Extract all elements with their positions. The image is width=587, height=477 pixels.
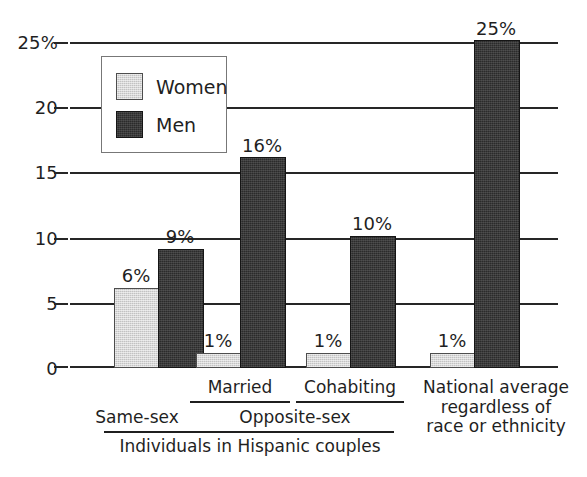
- bar-chart: 25% 20 15 10 5 0 6% 9% 1% 16% 1% 10% 1% …: [0, 0, 587, 477]
- bar-men-same-sex[interactable]: [158, 249, 204, 368]
- x-label-individuals-in-hispanic-couples: Individuals in Hispanic couples: [119, 437, 380, 457]
- bar-label-men-cohabiting: 10%: [352, 213, 392, 234]
- bar-women-cohabiting[interactable]: [306, 353, 352, 368]
- tick-stub-20: [54, 107, 68, 109]
- women-swatch-icon: [116, 73, 143, 100]
- bar-label-women-national-average: 1%: [438, 330, 467, 351]
- x-label-same-sex: Same-sex: [95, 408, 178, 428]
- bar-label-men-same-sex: 9%: [166, 226, 195, 247]
- bar-women-married[interactable]: [196, 353, 242, 368]
- y-axis-tick-labels: 25% 20 15 10 5 0: [0, 42, 58, 368]
- y-tick-label-0: 0: [46, 358, 58, 379]
- bar-label-women-married: 1%: [204, 330, 233, 351]
- tick-stub-15: [54, 172, 68, 174]
- bar-women-national-average[interactable]: [430, 353, 476, 368]
- bar-men-cohabiting[interactable]: [350, 236, 396, 368]
- legend-item-men[interactable]: Men: [116, 111, 196, 138]
- x-label-cohabiting: Cohabiting: [304, 378, 396, 398]
- legend: Women Men: [101, 56, 227, 153]
- x-rule-opposite-sex: [104, 431, 394, 433]
- bar-women-same-sex[interactable]: [114, 288, 160, 368]
- bar-label-women-cohabiting: 1%: [314, 330, 343, 351]
- tick-stub-25: [54, 42, 68, 44]
- bar-men-married[interactable]: [240, 157, 286, 368]
- x-label-national-average: National average regardless of race or e…: [421, 378, 571, 437]
- bar-label-women-same-sex: 6%: [122, 265, 151, 286]
- y-tick-label-25: 25%: [17, 32, 58, 53]
- tick-stub-10: [54, 238, 68, 240]
- bar-label-men-married: 16%: [242, 135, 282, 156]
- legend-item-women[interactable]: Women: [116, 73, 228, 100]
- men-swatch-icon: [116, 111, 143, 138]
- tick-stub-0: [54, 366, 68, 368]
- x-rule-cohabiting: [296, 401, 404, 403]
- bar-label-men-national-average: 25%: [476, 18, 516, 39]
- legend-label-women: Women: [156, 76, 228, 98]
- x-label-married: Married: [208, 378, 273, 398]
- tick-stub-5: [54, 303, 68, 305]
- x-label-opposite-sex: Opposite-sex: [239, 408, 350, 428]
- x-rule-married: [190, 401, 290, 403]
- bar-men-national-average[interactable]: [474, 40, 520, 368]
- legend-label-men: Men: [156, 114, 196, 136]
